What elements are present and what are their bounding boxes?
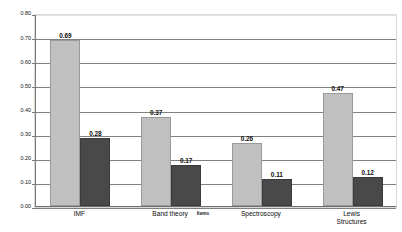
bar[interactable] bbox=[50, 40, 80, 206]
y-tick-label: 0.60 bbox=[3, 60, 31, 65]
data-label: 0.12 bbox=[347, 170, 389, 176]
gridline bbox=[35, 208, 396, 209]
x-category-label: Spectroscopy bbox=[216, 210, 307, 218]
x-category-label: LewisStructures bbox=[306, 210, 397, 226]
data-label: 0.28 bbox=[74, 131, 116, 137]
bar[interactable] bbox=[80, 138, 110, 206]
y-tick-label: 0.50 bbox=[3, 84, 31, 89]
bars-layer bbox=[35, 15, 396, 207]
y-axis-tick-labels: 0.800.700.600.500.400.300.200.100.00 bbox=[0, 14, 31, 208]
y-tick-mark bbox=[32, 208, 35, 209]
bar[interactable] bbox=[262, 179, 292, 206]
data-label: 0.17 bbox=[165, 158, 207, 164]
y-tick-label: 0.70 bbox=[3, 36, 31, 41]
y-tick-label: 0.80 bbox=[3, 11, 31, 16]
data-label: 0.47 bbox=[317, 86, 359, 92]
bar[interactable] bbox=[323, 93, 353, 206]
data-label: 0.11 bbox=[256, 172, 298, 178]
y-tick-label: 0.30 bbox=[3, 132, 31, 137]
bar[interactable] bbox=[353, 177, 383, 206]
y-tick-label: 0.40 bbox=[3, 108, 31, 113]
x-category-label: IMF bbox=[34, 210, 125, 218]
y-tick-label: 0.00 bbox=[3, 204, 31, 209]
bar[interactable] bbox=[171, 165, 201, 206]
bar-chart: Difficulty Index 0.800.700.600.500.400.3… bbox=[0, 0, 402, 232]
y-tick-label: 0.20 bbox=[3, 156, 31, 161]
x-axis-title: Items bbox=[183, 211, 223, 216]
data-label: 0.26 bbox=[226, 136, 268, 142]
data-label: 0.37 bbox=[135, 110, 177, 116]
plot-area: 0.690.280.370.170.260.110.470.12 bbox=[34, 14, 397, 208]
data-label: 0.69 bbox=[44, 33, 86, 39]
y-tick-label: 0.10 bbox=[3, 180, 31, 185]
